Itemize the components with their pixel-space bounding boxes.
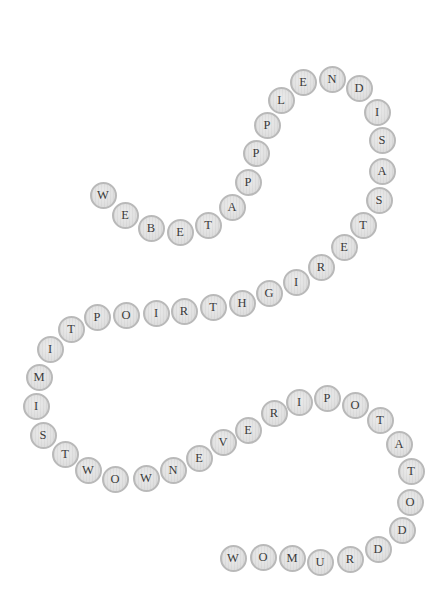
bead-letter: S (379, 134, 386, 147)
bead-letter: T (376, 414, 384, 427)
letter-bead: R (171, 298, 198, 325)
letter-bead: I (286, 389, 313, 416)
bead-letter: E (176, 226, 184, 239)
bead-letter: T (67, 323, 75, 336)
letter-bead: I (23, 393, 50, 420)
letter-bead: P (314, 385, 341, 412)
bead-letter: O (350, 399, 359, 412)
bead-chain-puzzle: WEBETAPPPLENDISASTERIGHTRIOPTIMISTWOWNEV… (0, 0, 448, 603)
bead-letter: R (180, 305, 188, 318)
bead-letter: W (97, 189, 109, 202)
bead-letter: P (94, 311, 101, 324)
letter-bead: P (235, 169, 262, 196)
letter-bead: I (283, 269, 310, 296)
letter-bead: R (261, 400, 288, 427)
bead-letter: O (405, 496, 414, 509)
bead-letter: I (375, 106, 379, 119)
letter-bead: P (243, 140, 270, 167)
letter-bead: S (30, 422, 57, 449)
bead-letter: O (258, 551, 267, 564)
bead-letter: I (34, 400, 38, 413)
bead-letter: W (140, 472, 152, 485)
bead-letter: T (359, 219, 367, 232)
bead-letter: R (346, 553, 354, 566)
bead-letter: E (121, 209, 129, 222)
letter-bead: T (350, 212, 377, 239)
bead-letter: B (147, 222, 155, 235)
letter-bead: E (235, 417, 262, 444)
letter-bead: O (113, 302, 140, 329)
bead-letter: E (299, 76, 307, 89)
bead-letter: O (121, 309, 130, 322)
letter-bead: O (102, 466, 129, 493)
bead-letter: T (61, 448, 69, 461)
bead-letter: D (397, 524, 406, 537)
letter-bead: A (369, 158, 396, 185)
letter-bead: T (200, 294, 227, 321)
letter-bead: I (364, 99, 391, 126)
bead-letter: E (340, 241, 348, 254)
bead-letter: D (373, 543, 382, 556)
letter-bead: R (337, 546, 364, 573)
letter-bead: E (112, 202, 139, 229)
bead-letter: E (195, 452, 203, 465)
letter-bead: B (138, 215, 165, 242)
bead-letter: T (407, 465, 415, 478)
bead-letter: S (376, 194, 383, 207)
letter-bead: R (308, 254, 335, 281)
letter-bead: E (167, 219, 194, 246)
bead-letter: N (168, 464, 177, 477)
bead-letter: I (154, 307, 158, 320)
letter-bead: M (26, 364, 53, 391)
bead-letter: L (277, 94, 285, 107)
bead-letter: T (209, 301, 217, 314)
letter-bead: O (342, 392, 369, 419)
letter-bead: G (256, 280, 283, 307)
letter-bead: W (220, 545, 247, 572)
bead-letter: W (82, 464, 94, 477)
letter-bead: O (397, 489, 424, 516)
letter-bead: T (367, 407, 394, 434)
letter-bead: N (319, 66, 346, 93)
letter-bead: W (75, 457, 102, 484)
letter-bead: T (52, 441, 79, 468)
bead-letter: M (286, 552, 297, 565)
bead-letter: H (237, 297, 246, 310)
letter-bead: O (250, 544, 277, 571)
letter-bead: S (369, 127, 396, 154)
letter-bead: H (229, 290, 256, 317)
bead-letter: G (264, 287, 273, 300)
letter-bead: D (389, 517, 416, 544)
letter-bead: T (398, 458, 425, 485)
letter-bead: T (195, 212, 222, 239)
letter-bead: T (58, 316, 85, 343)
letter-bead: S (366, 187, 393, 214)
letter-bead: U (307, 549, 334, 576)
bead-letter: I (297, 396, 301, 409)
bead-letter: P (253, 147, 260, 160)
letter-bead: E (290, 69, 317, 96)
bead-letter: N (327, 73, 336, 86)
bead-letter: R (317, 261, 325, 274)
bead-letter: V (218, 436, 227, 449)
letter-bead: N (160, 457, 187, 484)
letter-bead: M (279, 545, 306, 572)
letter-bead: I (143, 300, 170, 327)
letter-bead: P (84, 304, 111, 331)
bead-letter: A (394, 438, 403, 451)
letter-bead: D (365, 536, 392, 563)
letter-bead: W (90, 182, 117, 209)
letter-bead: A (386, 431, 413, 458)
letter-bead: E (186, 445, 213, 472)
bead-letter: I (294, 276, 298, 289)
letter-bead: E (331, 234, 358, 261)
bead-letter: M (33, 371, 44, 384)
letter-bead: D (346, 75, 373, 102)
bead-letter: O (110, 473, 119, 486)
bead-letter: T (204, 219, 212, 232)
bead-letter: P (324, 392, 331, 405)
letter-bead: I (37, 336, 64, 363)
bead-letter: U (315, 556, 324, 569)
letter-bead: P (254, 112, 281, 139)
letter-bead: V (210, 429, 237, 456)
